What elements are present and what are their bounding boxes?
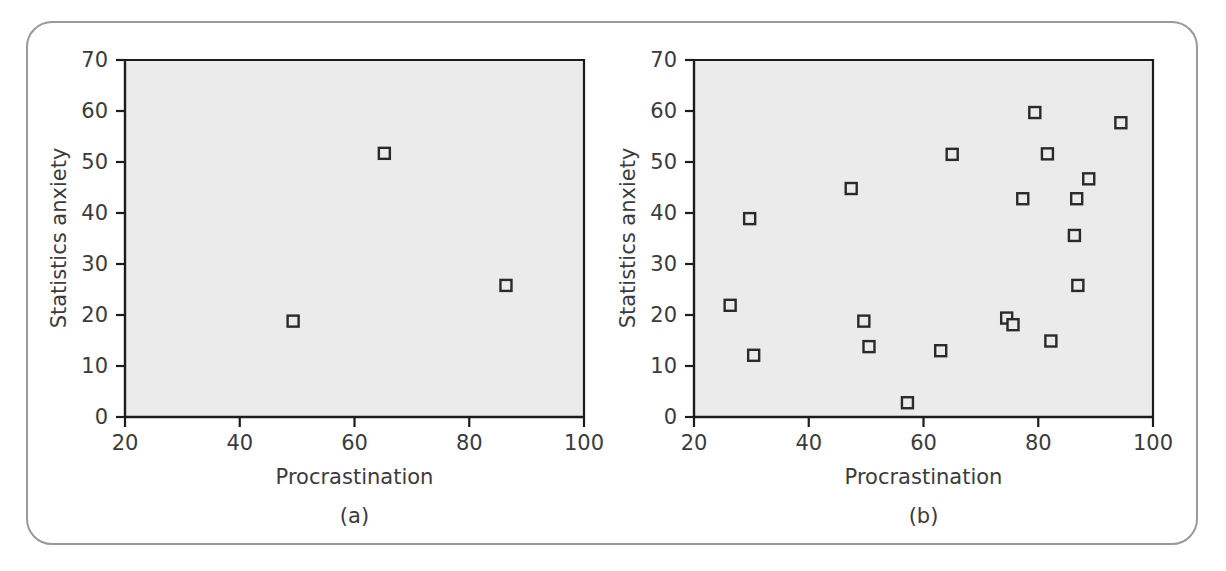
scatter-marker: [858, 316, 869, 327]
y-tick-label: 0: [95, 405, 108, 429]
plot-area-background-a: [125, 60, 584, 417]
scatter-marker: [1083, 173, 1094, 184]
y-tick-label: 50: [650, 150, 677, 174]
scatter-panel-b: 0 10 20 30 40 50 60 70 20 40 60 80 100 P…: [591, 23, 1177, 547]
scatter-plot-b: 0 10 20 30 40 50 60 70 20 40 60 80 100 P…: [591, 23, 1177, 547]
x-tick-marks-b: [694, 417, 1153, 427]
y-tick-label: 70: [81, 48, 108, 72]
y-tick-label: 10: [81, 354, 108, 378]
scatter-marker: [846, 183, 857, 194]
scatter-marker: [1042, 148, 1053, 159]
y-tick-label: 40: [650, 201, 677, 225]
x-tick-label: 60: [341, 431, 368, 455]
scatter-marker: [947, 149, 958, 160]
scatter-plot-a: 0 10 20 30 40 50 60 70 20 40 60 80 100 P…: [28, 23, 614, 547]
x-tick-label: 80: [1025, 431, 1052, 455]
x-tick-labels-a: 20 40 60 80 100: [112, 431, 604, 455]
y-tick-label: 0: [664, 405, 677, 429]
x-tick-labels-b: 20 40 60 80 100: [681, 431, 1173, 455]
scatter-marker: [288, 316, 299, 327]
panel-caption-b: (b): [909, 504, 939, 528]
y-tick-label: 20: [81, 303, 108, 327]
plot-area-background-b: [694, 60, 1153, 417]
scatter-marker: [725, 300, 736, 311]
scatter-marker: [1029, 107, 1040, 118]
y-tick-label: 60: [650, 99, 677, 123]
y-tick-label: 10: [650, 354, 677, 378]
y-tick-labels-a: 0 10 20 30 40 50 60 70: [81, 48, 108, 429]
scatter-marker: [1069, 230, 1080, 241]
scatter-marker: [1017, 193, 1028, 204]
scatter-marker: [1008, 319, 1019, 330]
scatter-marker: [863, 341, 874, 352]
x-axis-title-b: Procrastination: [845, 465, 1003, 489]
scatter-marker: [1071, 193, 1082, 204]
y-tick-label: 60: [81, 99, 108, 123]
x-tick-label: 20: [681, 431, 708, 455]
y-tick-labels-b: 0 10 20 30 40 50 60 70: [650, 48, 677, 429]
panel-caption-a: (a): [340, 504, 369, 528]
x-tick-label: 20: [112, 431, 139, 455]
x-tick-marks-a: [125, 417, 584, 427]
x-axis-title-a: Procrastination: [276, 465, 434, 489]
scatter-marker: [500, 280, 511, 291]
y-tick-marks-b: [685, 60, 694, 417]
x-tick-label: 40: [226, 431, 253, 455]
y-tick-label: 30: [81, 252, 108, 276]
y-axis-title-b: Statistics anxiety: [616, 148, 640, 329]
y-tick-label: 70: [650, 48, 677, 72]
scatter-marker: [935, 345, 946, 356]
x-tick-label: 40: [795, 431, 822, 455]
y-tick-label: 30: [650, 252, 677, 276]
y-tick-marks-a: [116, 60, 125, 417]
y-tick-label: 20: [650, 303, 677, 327]
x-tick-label: 100: [1133, 431, 1173, 455]
x-tick-label: 80: [456, 431, 483, 455]
figure-frame: 0 10 20 30 40 50 60 70 20 40 60 80 100 P…: [26, 21, 1198, 545]
x-tick-label: 60: [910, 431, 937, 455]
scatter-panel-a: 0 10 20 30 40 50 60 70 20 40 60 80 100 P…: [28, 23, 614, 547]
scatter-marker: [1072, 280, 1083, 291]
scatter-marker: [748, 350, 759, 361]
y-axis-title-a: Statistics anxiety: [47, 148, 71, 329]
scatter-marker: [744, 213, 755, 224]
scatter-marker: [902, 397, 913, 408]
scatter-marker: [379, 148, 390, 159]
scatter-marker: [1115, 117, 1126, 128]
y-tick-label: 40: [81, 201, 108, 225]
scatter-marker: [1045, 336, 1056, 347]
y-tick-label: 50: [81, 150, 108, 174]
